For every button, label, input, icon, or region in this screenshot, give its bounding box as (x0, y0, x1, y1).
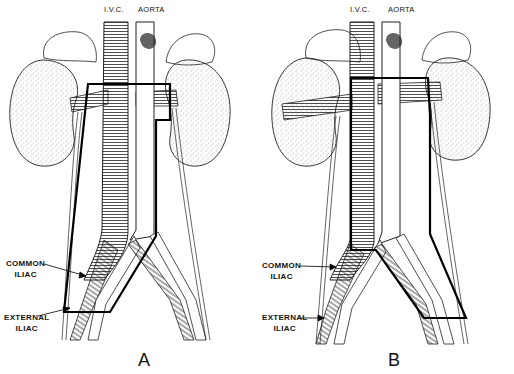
external-iliac-line1-a: EXTERNAL (4, 312, 50, 323)
aorta-a (130, 22, 154, 240)
ivc-label-b: I.V.C. (350, 4, 370, 15)
common-iliac-label-a: COMMON ILIAC (6, 258, 45, 280)
aorta-label-a: AORTA (138, 4, 165, 15)
external-iliac-label-a: EXTERNAL ILIAC (4, 312, 50, 334)
aorta-label-b: AORTA (388, 4, 415, 15)
left-adrenal-a (43, 32, 96, 62)
common-iliac-label-b: COMMON ILIAC (262, 260, 301, 282)
external-iliac-line2-a: ILIAC (4, 323, 50, 334)
external-iliac-line2-b: ILIAC (262, 323, 308, 334)
common-iliac-line1-a: COMMON (6, 258, 45, 269)
panel-a-drawing (10, 22, 230, 340)
aorta-b (378, 22, 400, 244)
external-iliac-line1-b: EXTERNAL (262, 312, 308, 323)
panel-b-drawing (272, 22, 490, 344)
ivc-label-a: I.V.C. (104, 4, 124, 15)
panel-letter-b: B (388, 350, 400, 371)
right-kidney-a (165, 60, 230, 166)
anatomy-illustration (0, 0, 514, 374)
common-iliac-line2-b: ILIAC (262, 271, 301, 282)
panel-letter-a: A (138, 350, 150, 371)
common-iliac-line2-a: ILIAC (6, 269, 45, 280)
common-iliac-line1-b: COMMON (262, 260, 301, 271)
external-iliac-label-b: EXTERNAL ILIAC (262, 312, 308, 334)
left-kidney-a (10, 60, 78, 166)
